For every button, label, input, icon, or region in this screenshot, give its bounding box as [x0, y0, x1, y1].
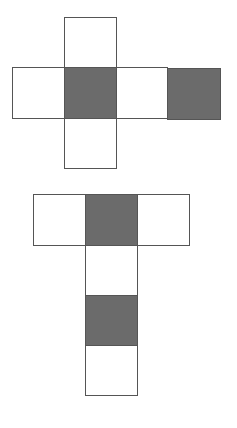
empty-square — [85, 345, 138, 396]
shaded-square — [85, 295, 138, 346]
empty-square — [33, 194, 86, 246]
shaded-square — [85, 194, 138, 246]
t-net — [0, 0, 237, 428]
empty-square — [137, 194, 190, 246]
empty-square — [85, 245, 138, 296]
